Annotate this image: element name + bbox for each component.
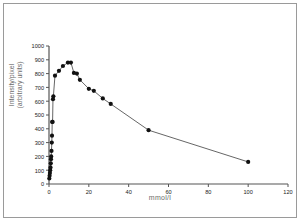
data-point bbox=[50, 134, 54, 138]
data-point bbox=[49, 149, 53, 153]
data-point bbox=[50, 141, 54, 145]
data-point bbox=[49, 154, 53, 158]
y-axis-tick-label: 100 bbox=[35, 168, 44, 174]
data-point bbox=[92, 89, 96, 93]
data-point bbox=[146, 128, 150, 132]
y-axis: 01002003004005006007008009001000 bbox=[32, 43, 49, 187]
data-point bbox=[49, 161, 53, 165]
data-point bbox=[109, 102, 113, 106]
x-axis-tick-label: 80 bbox=[205, 189, 211, 195]
y-axis-title: Intensity/pixel (arbitrary units) bbox=[8, 35, 24, 135]
data-point bbox=[75, 72, 79, 76]
y-axis-tick-label: 1000 bbox=[32, 43, 44, 49]
data-point bbox=[48, 165, 52, 169]
x-axis-tick-label: 100 bbox=[243, 189, 252, 195]
x-axis-tick-label: 0 bbox=[47, 189, 50, 195]
data-series bbox=[47, 60, 250, 180]
y-axis-tick-label: 500 bbox=[35, 112, 44, 118]
data-point bbox=[61, 64, 65, 68]
data-point bbox=[101, 96, 105, 100]
y-axis-tick-label: 600 bbox=[35, 99, 44, 105]
y-axis-tick-label: 200 bbox=[35, 154, 44, 160]
y-axis-tick-label: 700 bbox=[35, 85, 44, 91]
x-axis-tick-label: 120 bbox=[283, 189, 292, 195]
data-point bbox=[69, 60, 73, 64]
y-axis-title-line1: Intensity/pixel bbox=[8, 35, 16, 135]
y-axis-tick-label: 400 bbox=[35, 126, 44, 132]
data-point bbox=[87, 87, 91, 91]
chart-screenshot: 01002003004005006007008009001000 0204060… bbox=[0, 0, 301, 222]
y-axis-tick-label: 800 bbox=[35, 71, 44, 77]
chart-plot-area: 01002003004005006007008009001000 0204060… bbox=[0, 0, 301, 222]
y-axis-title-line2: (arbitrary units) bbox=[16, 35, 24, 135]
data-point bbox=[50, 120, 54, 124]
x-axis-title: mmol/l bbox=[125, 194, 195, 201]
y-axis-tick-label: 900 bbox=[35, 57, 44, 63]
y-axis-tick-label: 0 bbox=[41, 181, 44, 187]
data-point bbox=[246, 160, 250, 164]
data-point bbox=[57, 69, 61, 73]
x-axis-tick-label: 20 bbox=[86, 189, 92, 195]
data-point bbox=[51, 94, 55, 98]
data-point bbox=[78, 78, 82, 82]
data-point bbox=[53, 74, 57, 78]
y-axis-tick-label: 300 bbox=[35, 140, 44, 146]
